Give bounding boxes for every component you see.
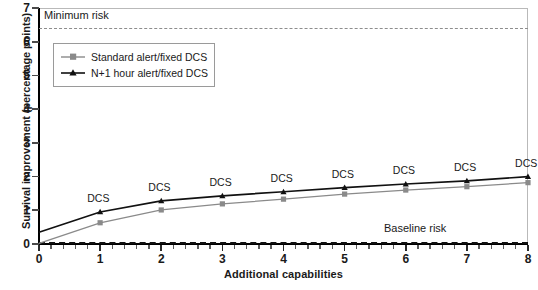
y-tick bbox=[32, 75, 39, 77]
data-point-square bbox=[98, 220, 103, 225]
y-tick-label: 1 bbox=[15, 204, 30, 216]
x-tick-minor bbox=[173, 245, 174, 249]
x-tick-minor bbox=[136, 245, 137, 249]
x-tick-minor bbox=[503, 245, 504, 249]
x-tick-minor bbox=[381, 245, 382, 249]
y-tick-label: 5 bbox=[15, 69, 30, 81]
x-tick-minor bbox=[246, 245, 247, 249]
x-tick-major bbox=[160, 245, 162, 251]
x-tick-major bbox=[405, 245, 407, 251]
y-tick-label: 2 bbox=[15, 171, 30, 183]
plot-area: 01234567 012345678 Minimum risk Baseline… bbox=[39, 8, 528, 244]
legend: Standard alert/fixed DCS N+1 hour alert/… bbox=[53, 43, 215, 87]
x-tick-minor bbox=[124, 245, 125, 249]
x-tick-minor bbox=[185, 245, 186, 249]
dcs-annotation: DCS bbox=[209, 176, 231, 188]
y-tick bbox=[32, 108, 39, 110]
x-tick-minor bbox=[478, 245, 479, 249]
dcs-annotation: DCS bbox=[393, 164, 415, 176]
x-tick-label: 8 bbox=[516, 253, 538, 265]
x-tick-minor bbox=[442, 245, 443, 249]
y-tick-label: 0 bbox=[15, 238, 30, 250]
x-tick-minor bbox=[454, 245, 455, 249]
legend-item-standard: Standard alert/fixed DCS bbox=[60, 49, 208, 65]
chart-figure: Survival improvement (percentage points)… bbox=[0, 0, 538, 290]
x-tick-minor bbox=[393, 245, 394, 249]
legend-label-n-plus-1: N+1 hour alert/fixed DCS bbox=[91, 67, 208, 79]
data-point-square bbox=[403, 187, 408, 192]
x-tick-label: 3 bbox=[210, 253, 234, 265]
x-tick-major bbox=[527, 245, 529, 251]
x-tick-label: 6 bbox=[394, 253, 418, 265]
dcs-annotation: DCS bbox=[148, 181, 170, 193]
x-tick-minor bbox=[75, 245, 76, 249]
x-tick-major bbox=[466, 245, 468, 251]
x-tick-minor bbox=[417, 245, 418, 249]
data-point-square bbox=[342, 192, 347, 197]
y-tick bbox=[32, 142, 39, 144]
x-tick-minor bbox=[319, 245, 320, 249]
x-tick-label: 5 bbox=[333, 253, 357, 265]
dcs-annotation: DCS bbox=[87, 192, 109, 204]
x-tick-minor bbox=[332, 245, 333, 249]
x-tick-major bbox=[222, 245, 224, 251]
x-tick-minor bbox=[515, 245, 516, 249]
legend-item-n-plus-1: N+1 hour alert/fixed DCS bbox=[60, 65, 208, 81]
x-axis-label: Additional capabilities bbox=[39, 268, 528, 280]
x-tick-label: 7 bbox=[455, 253, 479, 265]
x-tick-major bbox=[283, 245, 285, 251]
y-tick-label: 6 bbox=[15, 36, 30, 48]
x-tick-minor bbox=[197, 245, 198, 249]
x-tick-major bbox=[344, 245, 346, 251]
data-point-square bbox=[159, 207, 164, 212]
series-line-2 bbox=[39, 177, 528, 233]
x-tick-minor bbox=[234, 245, 235, 249]
y-tick bbox=[32, 176, 39, 178]
y-tick-label: 7 bbox=[15, 2, 30, 14]
x-tick-minor bbox=[112, 245, 113, 249]
y-tick-label: 3 bbox=[15, 137, 30, 149]
x-tick-minor bbox=[148, 245, 149, 249]
data-point-square bbox=[281, 197, 286, 202]
x-tick-label: 0 bbox=[27, 253, 51, 265]
data-point-square bbox=[525, 180, 530, 185]
x-tick-minor bbox=[50, 245, 51, 249]
legend-marker-square bbox=[60, 51, 86, 63]
legend-label-standard: Standard alert/fixed DCS bbox=[91, 51, 207, 63]
dcs-annotation: DCS bbox=[271, 172, 293, 184]
dcs-annotation: DCS bbox=[515, 157, 537, 169]
data-point-square bbox=[220, 201, 225, 206]
x-tick-minor bbox=[87, 245, 88, 249]
x-tick-minor bbox=[63, 245, 64, 249]
x-tick-minor bbox=[491, 245, 492, 249]
y-tick bbox=[32, 7, 39, 9]
y-tick bbox=[32, 41, 39, 43]
x-tick-minor bbox=[368, 245, 369, 249]
x-tick-minor bbox=[356, 245, 357, 249]
dcs-annotation: DCS bbox=[332, 168, 354, 180]
x-tick-label: 1 bbox=[88, 253, 112, 265]
y-tick-label: 4 bbox=[15, 103, 30, 115]
x-tick-minor bbox=[295, 245, 296, 249]
x-tick-minor bbox=[258, 245, 259, 249]
x-tick-minor bbox=[429, 245, 430, 249]
dcs-annotation: DCS bbox=[454, 161, 476, 173]
x-tick-major bbox=[38, 245, 40, 251]
y-tick bbox=[32, 209, 39, 211]
legend-marker-triangle bbox=[60, 67, 86, 79]
x-tick-label: 4 bbox=[272, 253, 296, 265]
x-tick-minor bbox=[307, 245, 308, 249]
data-point-square bbox=[464, 184, 469, 189]
x-tick-minor bbox=[270, 245, 271, 249]
x-tick-major bbox=[99, 245, 101, 251]
x-tick-label: 2 bbox=[149, 253, 173, 265]
x-tick-minor bbox=[209, 245, 210, 249]
